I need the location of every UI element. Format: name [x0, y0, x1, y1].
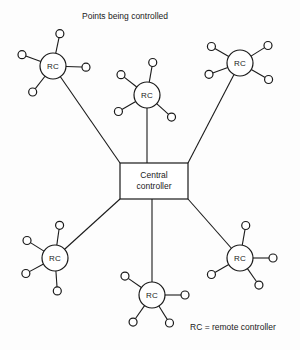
- diagram-canvas: RCRCRCRCRCRC Central controller Points b…: [0, 0, 300, 350]
- spoke-line: [35, 76, 45, 89]
- spoke-line: [124, 77, 137, 87]
- spoke-line: [56, 38, 59, 54]
- spoke-line: [215, 265, 229, 273]
- spoke-line: [30, 243, 44, 251]
- controlled-point-circle: [29, 88, 37, 96]
- controlled-point-circle: [265, 76, 273, 84]
- spoke-line: [57, 229, 59, 245]
- remote-controller-label: RC: [234, 254, 246, 263]
- spoke-line: [247, 269, 256, 282]
- controlled-point-circle: [56, 221, 64, 229]
- controlled-point-circle: [23, 237, 31, 245]
- rc-bottom-left: RC: [42, 245, 68, 271]
- spoke-line: [56, 271, 57, 287]
- rc-bottom-middle: RC: [139, 282, 165, 308]
- controlled-point-circle: [22, 269, 30, 277]
- remote-controller-label: RC: [141, 91, 153, 100]
- legend-label: RC = remote controller: [190, 322, 276, 332]
- spoke-line: [215, 49, 229, 57]
- controlled-point-circle: [121, 272, 129, 280]
- spoke-line: [66, 66, 82, 67]
- spoke-line: [157, 104, 169, 115]
- network-diagram-figure: RCRCRCRCRCRC Central controller Points b…: [0, 0, 300, 350]
- controlled-point-circle: [165, 319, 173, 327]
- central-controller-label-line2: controller: [137, 181, 172, 191]
- controlled-point-circle: [242, 222, 250, 230]
- remote-controller-label: RC: [234, 59, 246, 68]
- controlled-point-circle: [255, 281, 263, 289]
- controlled-point-circle: [181, 291, 189, 299]
- controlled-point-circle: [264, 42, 272, 50]
- spoke-line: [29, 264, 43, 272]
- controlled-point-circle: [18, 51, 26, 59]
- controlled-point-circle: [149, 59, 157, 67]
- controlled-point-circle: [53, 287, 61, 295]
- hub-link-rc-top-left: [60, 77, 120, 163]
- hub-link-rc-top-right: [188, 75, 234, 163]
- controlled-point-circle: [82, 63, 90, 71]
- remote-controller-label: RC: [49, 254, 61, 263]
- spoke-line: [128, 278, 141, 287]
- controlled-point-circle: [168, 113, 176, 121]
- diagram-title: Points being controlled: [82, 11, 168, 21]
- controlled-point-circle: [269, 254, 277, 262]
- hub-link-rc-bottom-left: [65, 199, 120, 249]
- spoke-line: [242, 229, 245, 245]
- spoke-line: [251, 70, 265, 78]
- spoke-line: [26, 56, 41, 61]
- controlled-point-circle: [207, 271, 215, 279]
- rc-top-left: RC: [40, 53, 66, 79]
- spoke-line: [159, 306, 167, 320]
- spoke-line: [213, 67, 228, 72]
- controlled-point-circle: [117, 71, 125, 79]
- controlled-point-circle: [56, 30, 64, 38]
- remote-controller-label: RC: [146, 291, 158, 300]
- central-controller-label-line1: Central: [140, 170, 168, 180]
- spoke-line: [122, 102, 136, 110]
- hub-link-rc-bottom-right: [188, 199, 231, 248]
- rc-bottom-right: RC: [227, 245, 253, 271]
- controlled-point-circle: [207, 43, 215, 51]
- rc-top-right: RC: [227, 50, 253, 76]
- spoke-line: [149, 66, 152, 82]
- rc-top-middle: RC: [134, 82, 160, 108]
- spoke-line: [251, 48, 265, 56]
- spoke-line: [135, 306, 144, 319]
- central-controller-group: Central controller: [120, 163, 188, 199]
- controlled-point-circle: [129, 318, 137, 326]
- remote-controller-label: RC: [47, 62, 59, 71]
- controlled-point-circle: [205, 70, 213, 78]
- controlled-point-circle: [114, 108, 122, 116]
